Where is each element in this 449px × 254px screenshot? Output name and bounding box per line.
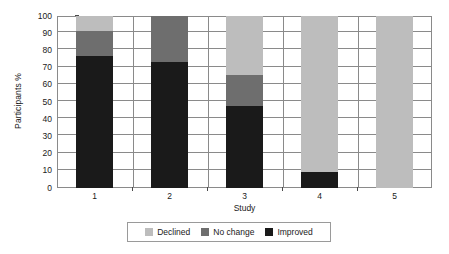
x-tick-label-1: 1 bbox=[57, 191, 132, 201]
bar-study-3 bbox=[226, 16, 263, 188]
bar-segment-improved-study-1 bbox=[76, 56, 113, 188]
y-tick-label-30: 30 bbox=[26, 132, 52, 141]
legend-item-declined[interactable]: Declined bbox=[145, 228, 190, 237]
bars-layer bbox=[57, 16, 432, 188]
legend-swatch-declined bbox=[145, 228, 153, 236]
bar-segment-declined-study-1 bbox=[76, 16, 113, 31]
bar-segment-declined-study-5 bbox=[376, 16, 413, 188]
y-tick-label-100: 100 bbox=[26, 12, 52, 21]
bar-group-study-3 bbox=[226, 16, 263, 188]
bar-group-study-5 bbox=[376, 16, 413, 188]
x-tick-label-4: 4 bbox=[282, 191, 357, 201]
bar-segment-improved-study-4 bbox=[301, 172, 338, 188]
y-tick-label-20: 20 bbox=[26, 149, 52, 158]
bar-segment-no-change-study-3 bbox=[226, 75, 263, 106]
y-axis-tick-labels: 0102030405060708090100 bbox=[22, 16, 52, 188]
bar-segment-no-change-study-1 bbox=[76, 31, 113, 57]
bar-group-study-4 bbox=[301, 16, 338, 188]
x-tick-label-3: 3 bbox=[207, 191, 282, 201]
bar-segment-declined-study-3 bbox=[226, 16, 263, 75]
y-tick-label-40: 40 bbox=[26, 115, 52, 124]
bar-segment-no-change-study-2 bbox=[151, 16, 188, 62]
bar-segment-improved-study-2 bbox=[151, 62, 188, 188]
legend-label-improved: Improved bbox=[277, 228, 312, 237]
chart-legend: DeclinedNo changeImproved bbox=[127, 222, 331, 242]
bar-study-2 bbox=[151, 16, 188, 188]
bar-study-5 bbox=[376, 16, 413, 188]
y-tick-label-60: 60 bbox=[26, 80, 52, 89]
legend-label-no-change: No change bbox=[213, 228, 254, 237]
y-tick-label-50: 50 bbox=[26, 98, 52, 107]
y-tick-label-10: 10 bbox=[26, 166, 52, 175]
legend-label-declined: Declined bbox=[157, 228, 190, 237]
x-tick-mark-4 bbox=[357, 187, 358, 191]
stacked-bar-chart: Participants % 0102030405060708090100 12… bbox=[0, 0, 449, 254]
y-tick-label-90: 90 bbox=[26, 29, 52, 38]
bar-study-4 bbox=[301, 16, 338, 188]
bar-study-1 bbox=[76, 16, 113, 188]
bar-group-study-2 bbox=[151, 16, 188, 188]
bar-segment-declined-study-4 bbox=[301, 16, 338, 172]
y-tick-label-80: 80 bbox=[26, 46, 52, 55]
y-tick-label-0: 0 bbox=[26, 184, 52, 193]
y-tick-label-70: 70 bbox=[26, 63, 52, 72]
x-tick-mark-3 bbox=[282, 187, 283, 191]
x-axis-title: Study bbox=[57, 203, 432, 213]
legend-item-no-change[interactable]: No change bbox=[201, 228, 254, 237]
bar-group-study-1 bbox=[76, 16, 113, 188]
x-tick-label-2: 2 bbox=[132, 191, 207, 201]
x-tick-label-5: 5 bbox=[357, 191, 432, 201]
x-tick-mark-2 bbox=[207, 187, 208, 191]
legend-item-improved[interactable]: Improved bbox=[265, 228, 312, 237]
legend-swatch-improved bbox=[265, 228, 273, 236]
x-tick-mark-1 bbox=[132, 187, 133, 191]
legend-swatch-no-change bbox=[201, 228, 209, 236]
bar-segment-improved-study-3 bbox=[226, 106, 263, 188]
